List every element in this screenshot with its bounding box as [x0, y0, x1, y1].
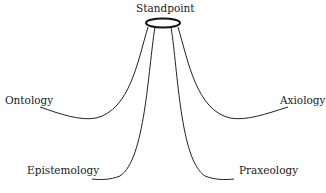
ontology-label: Ontology	[5, 94, 53, 106]
praxeology-connector	[171, 27, 234, 180]
praxeology-label: Praxeology	[239, 164, 298, 176]
standpoint-ring	[146, 19, 180, 28]
epistemology-connector	[92, 27, 155, 180]
axiology-connector	[178, 27, 288, 119]
ontology-connector	[40, 27, 148, 119]
epistemology-label: Epistemology	[27, 164, 99, 176]
axiology-label: Axiology	[280, 94, 326, 106]
standpoint-label: Standpoint	[136, 2, 195, 14]
